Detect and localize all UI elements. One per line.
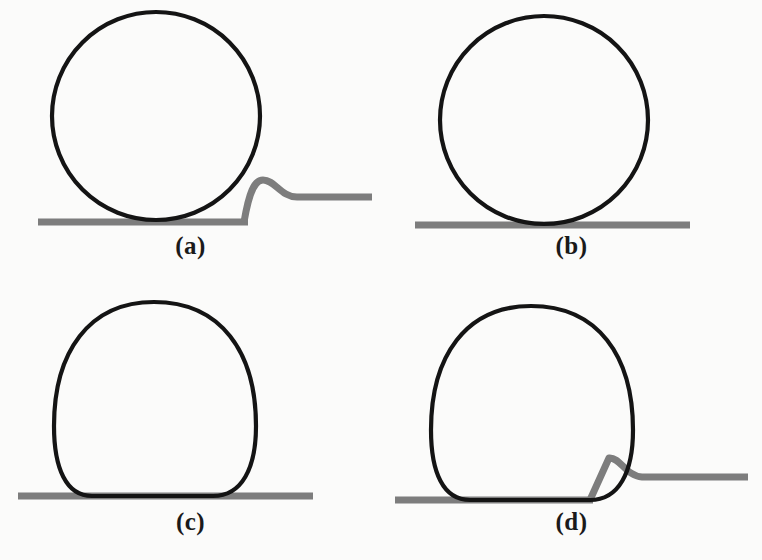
panel-d: (d) bbox=[381, 280, 762, 560]
droplet-outline-c bbox=[54, 302, 256, 496]
panel-label-b: (b) bbox=[381, 232, 762, 260]
panel-label-a: (a) bbox=[0, 232, 381, 260]
panel-label-d: (d) bbox=[381, 508, 762, 536]
substrate-ridge-a bbox=[244, 180, 372, 222]
panel-b: (b) bbox=[381, 0, 762, 280]
droplet-outline-a bbox=[52, 12, 260, 220]
figure-root: (a) (b) (c) (d) bbox=[0, 0, 762, 560]
panel-label-c: (c) bbox=[0, 508, 381, 536]
panel-a: (a) bbox=[0, 0, 381, 280]
panel-c: (c) bbox=[0, 280, 381, 560]
droplet-outline-b bbox=[440, 16, 648, 224]
